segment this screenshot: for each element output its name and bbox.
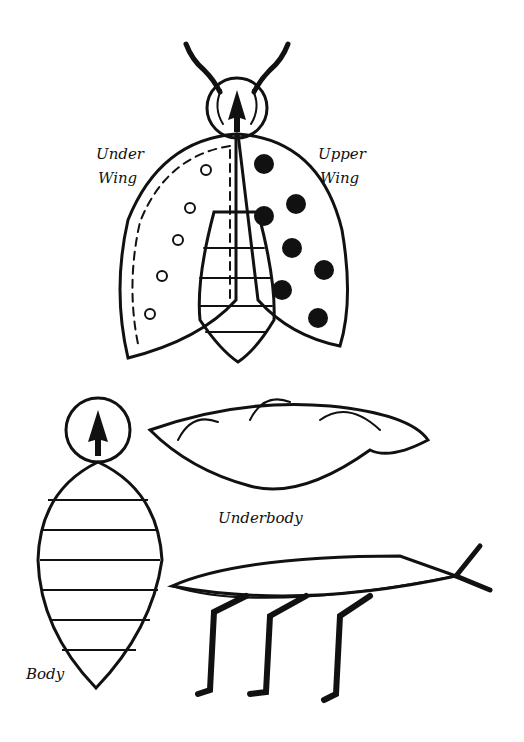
drawing (0, 0, 524, 742)
label-upper-wing-2: Wing (320, 168, 359, 188)
label-upper-wing-1: Upper (318, 144, 366, 164)
side-body (172, 556, 456, 596)
label-body: Body (26, 664, 64, 684)
antenna-left (186, 44, 220, 92)
underbody (150, 404, 428, 489)
label-underbody: Underbody (218, 508, 303, 528)
label-under-wing-1: Under (96, 144, 144, 164)
antenna-right (254, 44, 288, 92)
label-under-wing-2: Wing (98, 168, 137, 188)
bug-parts-illustration: Under Wing Upper Wing Underbody Body (0, 0, 524, 742)
body (38, 462, 162, 688)
